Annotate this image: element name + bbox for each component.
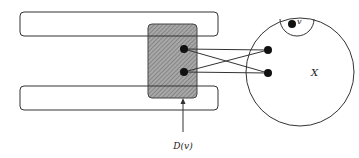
arrow-head-icon (181, 98, 186, 104)
vertex-v (288, 20, 296, 28)
set-x-circle (246, 18, 354, 126)
set-x-label: X (310, 67, 319, 78)
vertex-right-top (264, 46, 272, 54)
vertex-v-label: v (297, 17, 302, 26)
vertex-right-bottom (264, 69, 272, 77)
vertex-left-top (180, 45, 188, 53)
vertex-left-bottom (180, 68, 188, 76)
diagram-canvas: v X D(v) (0, 0, 359, 158)
dv-label: D(v) (172, 141, 193, 151)
shaded-box-dv (148, 24, 197, 98)
